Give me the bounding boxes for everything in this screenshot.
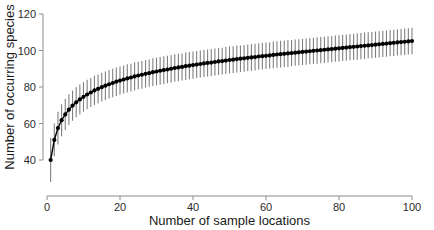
data-point — [176, 65, 180, 69]
x-tick-label: 20 — [114, 201, 126, 213]
data-point — [180, 65, 184, 69]
data-point — [118, 79, 122, 83]
data-point — [377, 42, 381, 46]
data-point — [348, 45, 352, 49]
data-point — [187, 64, 191, 68]
data-point — [330, 47, 334, 51]
data-point — [60, 118, 64, 122]
data-point — [103, 84, 107, 88]
data-point — [333, 47, 337, 51]
data-point — [344, 45, 348, 49]
data-point — [403, 40, 407, 44]
data-point — [114, 80, 118, 84]
data-point — [264, 54, 268, 58]
data-point — [143, 72, 147, 76]
data-point — [249, 55, 253, 59]
data-point — [147, 71, 151, 75]
data-point — [322, 48, 326, 52]
data-point — [191, 63, 195, 67]
data-point — [279, 52, 283, 56]
x-tick-label: 0 — [44, 201, 50, 213]
data-point — [107, 82, 111, 86]
data-point — [158, 69, 162, 73]
data-point — [209, 60, 213, 64]
data-point — [395, 40, 399, 44]
data-point — [370, 43, 374, 47]
data-point — [224, 58, 228, 62]
data-point — [260, 54, 264, 58]
data-point — [293, 51, 297, 55]
plot-svg: 406080100120020406080100Number of sample… — [0, 0, 434, 230]
data-point — [406, 39, 410, 43]
data-point — [271, 53, 275, 57]
data-point — [355, 44, 359, 48]
y-tick-label: 60 — [24, 118, 36, 130]
data-point — [136, 73, 140, 77]
data-point — [246, 56, 250, 60]
x-tick-label: 40 — [187, 201, 199, 213]
x-axis-title: Number of sample locations — [149, 213, 311, 228]
data-point — [56, 126, 60, 130]
data-point — [206, 61, 210, 65]
data-point — [92, 88, 96, 92]
axes-layer — [39, 14, 412, 200]
data-point — [162, 68, 166, 72]
data-point — [220, 59, 224, 63]
data-point — [140, 73, 144, 77]
data-point — [235, 57, 239, 61]
y-tick-label: 40 — [24, 154, 36, 166]
data-point — [297, 50, 301, 54]
data-point — [304, 49, 308, 53]
data-point — [341, 46, 345, 50]
data-point — [399, 40, 403, 44]
data-point — [213, 60, 217, 64]
y-tick-label: 120 — [18, 8, 36, 20]
data-point — [326, 47, 330, 51]
data-point — [67, 108, 71, 112]
data-point — [165, 67, 169, 71]
data-point — [133, 74, 137, 78]
data-point — [384, 41, 388, 45]
data-point — [169, 67, 173, 71]
data-point — [184, 64, 188, 68]
data-point — [253, 55, 257, 59]
data-point — [151, 70, 155, 74]
errorbar-layer — [51, 28, 412, 182]
x-tick-label: 80 — [333, 201, 345, 213]
data-point — [308, 49, 312, 53]
y-tick-label: 100 — [18, 45, 36, 57]
data-point — [410, 39, 414, 43]
data-point — [300, 50, 304, 54]
data-point — [70, 104, 74, 108]
species-accumulation-chart: 406080100120020406080100Number of sample… — [0, 0, 434, 230]
data-point — [257, 54, 261, 58]
data-point — [373, 43, 377, 47]
data-point — [129, 75, 133, 79]
data-point — [238, 57, 242, 61]
x-tick-label: 100 — [403, 201, 421, 213]
data-point — [89, 90, 93, 94]
data-point — [202, 61, 206, 65]
data-point — [381, 42, 385, 46]
data-point — [282, 52, 286, 56]
data-point — [227, 58, 231, 62]
data-point — [311, 49, 315, 53]
data-point — [96, 87, 100, 91]
data-point — [100, 85, 104, 89]
data-point — [111, 81, 115, 85]
data-point — [315, 48, 319, 52]
data-point — [289, 51, 293, 55]
data-point — [125, 76, 129, 80]
data-point — [173, 66, 177, 70]
data-point — [337, 46, 341, 50]
data-point — [362, 44, 366, 48]
data-markers-layer — [49, 39, 415, 162]
data-point — [81, 95, 85, 99]
data-point — [286, 51, 290, 55]
data-point — [85, 92, 89, 96]
data-point — [216, 59, 220, 63]
data-point — [359, 44, 363, 48]
data-point — [198, 62, 202, 66]
data-point — [366, 43, 370, 47]
data-point — [388, 41, 392, 45]
